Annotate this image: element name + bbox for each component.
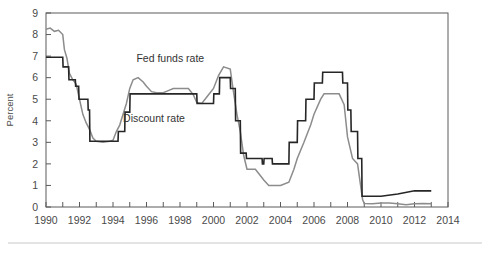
x-tick-label: 1996 <box>135 214 159 226</box>
y-tick-label: 1 <box>32 179 38 191</box>
x-tick-label: 2012 <box>403 214 427 226</box>
y-tick-label: 4 <box>32 115 38 127</box>
x-tick-label: 1998 <box>168 214 192 226</box>
y-tick-label: 9 <box>32 7 38 19</box>
x-tick-label: 1994 <box>101 214 125 226</box>
interest-rates-line-chart: 0123456789 19901992199419961998200020022… <box>0 0 490 253</box>
y-tick-label: 2 <box>32 158 38 170</box>
x-tick-label: 2004 <box>269 214 293 226</box>
annotation-label: Fed funds rate <box>136 52 204 64</box>
x-tick-label: 2010 <box>369 214 393 226</box>
series-annotations: Fed funds rateDiscount rate <box>123 52 204 124</box>
y-tick-label: 7 <box>32 50 38 62</box>
y-tick-label: 0 <box>32 201 38 213</box>
y-axis-ticks <box>46 13 51 207</box>
plot-frame <box>46 13 448 207</box>
x-tick-label: 2002 <box>235 214 259 226</box>
x-tick-label: 1992 <box>68 214 92 226</box>
y-tick-label: 8 <box>32 28 38 40</box>
y-axis-tick-labels: 0123456789 <box>32 7 38 213</box>
x-tick-label: 2000 <box>202 214 226 226</box>
series-layer <box>46 28 431 205</box>
y-tick-label: 5 <box>32 93 38 105</box>
x-axis-tick-labels: 1990199219941996199820002002200420062008… <box>34 214 460 226</box>
x-tick-label: 1990 <box>34 214 58 226</box>
x-tick-label: 2008 <box>336 214 360 226</box>
y-tick-label: 6 <box>32 71 38 83</box>
x-tick-label: 2014 <box>436 214 460 226</box>
y-tick-label: 3 <box>32 136 38 148</box>
x-tick-label: 2006 <box>302 214 326 226</box>
figure-container: 0123456789 19901992199419961998200020022… <box>0 0 490 253</box>
series-line-fed-funds-rate <box>46 28 431 205</box>
y-axis-title: Percent <box>4 93 15 126</box>
annotation-label: Discount rate <box>123 112 185 124</box>
